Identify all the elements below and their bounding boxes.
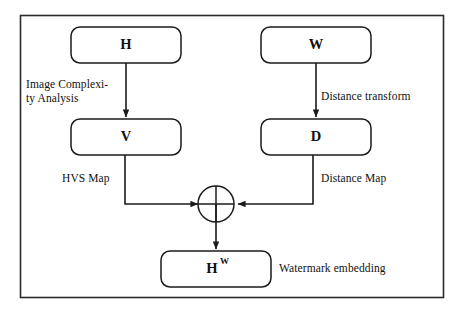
- diagram-canvas: H W V D H W Image Complexi- ty Analysis …: [0, 0, 463, 311]
- node-distance-map-label: D: [311, 128, 321, 144]
- connector-d-to-junction: [238, 155, 313, 204]
- label-image-complexity-analysis: Image Complexi- ty Analysis: [26, 78, 126, 105]
- node-watermarked-image-superscript: W: [220, 256, 229, 266]
- node-hvs-map-label: V: [121, 128, 132, 144]
- node-host-image-label: H: [120, 36, 132, 52]
- node-watermarked-image-label: H: [206, 260, 218, 276]
- connector-v-to-junction: [125, 155, 198, 204]
- label-distance-transform: Distance transform: [321, 90, 446, 104]
- label-distance-map: Distance Map: [321, 172, 416, 186]
- label-hvs-map: HVS Map: [62, 172, 132, 186]
- node-watermark-label: W: [309, 36, 324, 52]
- label-watermark-embedding: Watermark embedding: [279, 262, 429, 276]
